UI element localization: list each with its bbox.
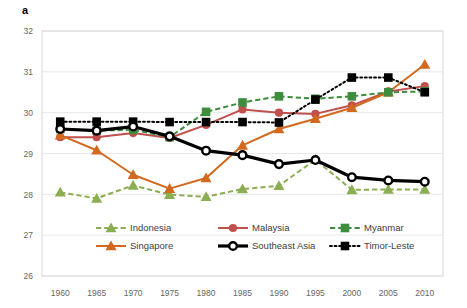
x-tick-label: 2010 [415,288,434,298]
x-tick-label: 1985 [233,288,252,298]
data-point-marker [238,118,247,127]
data-point-marker [238,98,247,107]
data-point-marker [202,118,211,127]
x-tick-label: 1990 [269,288,288,298]
panel-label: a [22,4,28,16]
y-tick-label: 26 [24,271,34,281]
data-point-marker [165,118,174,127]
y-tick-label: 30 [24,108,34,118]
x-tick-label: 2000 [342,288,361,298]
x-tick-label: 1995 [306,288,325,298]
data-point-marker [341,242,350,251]
legend-label: Singapore [130,240,173,251]
data-point-marker [384,88,393,97]
data-point-marker [348,73,357,82]
legend-label: Timor-Leste [364,240,414,251]
x-tick-label: 1975 [160,288,179,298]
data-point-marker [275,160,283,168]
y-tick-label: 31 [24,67,34,77]
legend-item-myanmar[interactable]: Myanmar [330,222,404,233]
data-point-marker [229,242,237,250]
data-point-marker [348,173,356,181]
data-point-marker [385,177,393,185]
x-tick-label: 1980 [197,288,216,298]
data-point-marker [384,73,393,82]
y-tick-label: 27 [24,230,34,240]
data-point-marker [348,92,357,101]
data-point-marker [275,109,283,117]
x-tick-label: 1965 [87,288,106,298]
data-point-marker [311,95,320,104]
y-tick-label: 29 [24,149,34,159]
legend-label: Indonesia [130,222,172,233]
data-point-marker [166,133,174,141]
line-chart: 26272829303132 1960196519701975198019851… [0,0,467,308]
legend-label: Malaysia [252,222,290,233]
x-tick-label: 1960 [51,288,70,298]
chart-figure: a 26272829303132 19601965197019751980198… [0,0,467,308]
data-point-marker [92,117,101,126]
legend-item-southeast-asia[interactable]: Southeast Asia [218,240,316,251]
data-point-marker [202,108,211,117]
data-point-marker [312,156,320,164]
data-point-marker [275,118,284,127]
data-point-marker [129,123,137,131]
legend-item-timor-leste[interactable]: Timor-Leste [330,240,414,251]
data-point-marker [239,151,247,159]
data-point-marker [341,224,350,233]
data-point-marker [421,178,429,186]
y-tick-label: 32 [24,26,34,36]
x-tick-label: 2005 [379,288,398,298]
data-point-marker [56,125,64,133]
y-tick-label: 28 [24,190,34,200]
data-point-marker [229,224,237,232]
legend-label: Myanmar [364,222,404,233]
data-point-marker [202,147,210,155]
data-point-marker [93,127,101,135]
data-point-marker [420,88,429,97]
legend-label: Southeast Asia [252,240,316,251]
data-point-marker [275,92,284,101]
x-tick-label: 1970 [124,288,143,298]
